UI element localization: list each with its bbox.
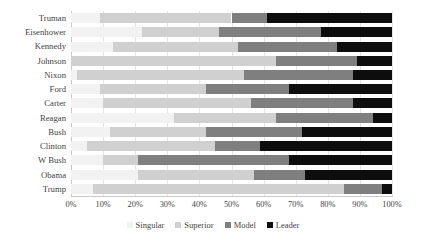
bar-row bbox=[71, 96, 392, 110]
bar-segment-model bbox=[206, 84, 289, 94]
bar-track bbox=[71, 13, 392, 23]
bar-segment-superior bbox=[103, 155, 138, 165]
bar-segment-singular bbox=[71, 84, 100, 94]
bar-row bbox=[71, 125, 392, 139]
bar-track bbox=[71, 84, 392, 94]
bar-segment-superior bbox=[87, 141, 215, 151]
category-label-clinton: Clinton bbox=[0, 139, 66, 153]
bar-segment-superior bbox=[103, 98, 251, 108]
legend-swatch-leader-icon bbox=[267, 222, 273, 228]
bar-segment-leader bbox=[267, 13, 392, 23]
bar-segment-leader bbox=[337, 42, 392, 52]
bar-segment-leader bbox=[382, 184, 392, 194]
x-axis-tick-labels: 0%10%20%30%40%50%60%70%80%90%100% bbox=[0, 198, 426, 212]
chart-title bbox=[0, 0, 426, 4]
bar-row bbox=[71, 111, 392, 125]
bar-segment-singular bbox=[71, 27, 142, 37]
category-axis-labels: TrumanEisenhowerKennedyJohnsonNixonFordC… bbox=[0, 11, 66, 196]
bar-segment-model bbox=[254, 170, 305, 180]
bar-segment-superior bbox=[142, 27, 219, 37]
bar-segment-model bbox=[206, 127, 302, 137]
bar-segment-singular bbox=[71, 141, 87, 151]
bar-row bbox=[71, 25, 392, 39]
bar-segment-model bbox=[251, 98, 354, 108]
bar-segment-leader bbox=[353, 70, 392, 80]
category-label-eisenhower: Eisenhower bbox=[0, 25, 66, 39]
bar-segment-leader bbox=[302, 127, 392, 137]
category-label-ford: Ford bbox=[0, 82, 66, 96]
bar-segment-model bbox=[276, 56, 356, 66]
category-label-nixon: Nixon bbox=[0, 68, 66, 82]
bar-segment-leader bbox=[357, 56, 392, 66]
bar-segment-singular bbox=[71, 184, 93, 194]
bar-track bbox=[71, 56, 392, 66]
legend-label: Model bbox=[234, 220, 256, 230]
bar-segment-model bbox=[344, 184, 383, 194]
bar-segment-singular bbox=[71, 155, 103, 165]
bar-segment-model bbox=[138, 155, 289, 165]
bar-segment-model bbox=[276, 113, 372, 123]
bar-segment-superior bbox=[100, 84, 206, 94]
bar-segment-superior bbox=[110, 127, 206, 137]
bar-segment-superior bbox=[138, 170, 254, 180]
bar-segment-model bbox=[219, 27, 322, 37]
chart-legend: SingularSuperiorModelLeader bbox=[0, 217, 426, 233]
bar-series-group bbox=[71, 11, 392, 196]
legend-item-leader[interactable]: Leader bbox=[267, 220, 300, 230]
bar-segment-leader bbox=[353, 98, 392, 108]
bar-row bbox=[71, 168, 392, 182]
bar-row bbox=[71, 139, 392, 153]
bar-segment-leader bbox=[305, 170, 392, 180]
bar-row bbox=[71, 11, 392, 25]
bar-segment-superior bbox=[174, 113, 277, 123]
legend-label: Singular bbox=[136, 220, 165, 230]
bar-segment-leader bbox=[373, 113, 392, 123]
bar-segment-singular bbox=[71, 170, 138, 180]
legend-label: Superior bbox=[184, 220, 213, 230]
bar-segment-singular bbox=[71, 113, 174, 123]
bar-row bbox=[71, 182, 392, 196]
bar-track bbox=[71, 184, 392, 194]
bar-track bbox=[71, 70, 392, 80]
legend-swatch-model-icon bbox=[225, 222, 231, 228]
bar-segment-model bbox=[244, 70, 353, 80]
bar-segment-superior bbox=[71, 56, 276, 66]
bar-track bbox=[71, 27, 392, 37]
bar-row bbox=[71, 153, 392, 167]
bar-track bbox=[71, 170, 392, 180]
bar-row bbox=[71, 68, 392, 82]
bar-segment-leader bbox=[321, 27, 392, 37]
bar-row bbox=[71, 82, 392, 96]
x-axis-line bbox=[71, 196, 393, 197]
bar-track bbox=[71, 141, 392, 151]
gridline-100 bbox=[392, 11, 393, 196]
bar-segment-singular bbox=[71, 42, 113, 52]
category-label-carter: Carter bbox=[0, 96, 66, 110]
category-label-kennedy: Kennedy bbox=[0, 39, 66, 53]
bar-segment-model bbox=[232, 13, 267, 23]
bar-track bbox=[71, 113, 392, 123]
category-label-reagan: Reagan bbox=[0, 111, 66, 125]
bar-track bbox=[71, 155, 392, 165]
bar-row bbox=[71, 39, 392, 53]
category-label-truman: Truman bbox=[0, 11, 66, 25]
bar-segment-model bbox=[238, 42, 338, 52]
x-tick-label-100: 100% bbox=[372, 198, 412, 212]
category-label-w-bush: W Bush bbox=[0, 153, 66, 167]
category-label-obama: Obama bbox=[0, 168, 66, 182]
bar-segment-singular bbox=[71, 13, 100, 23]
bar-segment-superior bbox=[77, 70, 244, 80]
category-label-bush: Bush bbox=[0, 125, 66, 139]
bar-row bbox=[71, 54, 392, 68]
stacked-bar-chart: TrumanEisenhowerKennedyJohnsonNixonFordC… bbox=[0, 0, 426, 240]
legend-item-superior[interactable]: Superior bbox=[175, 220, 213, 230]
category-label-johnson: Johnson bbox=[0, 54, 66, 68]
bar-segment-superior bbox=[113, 42, 238, 52]
legend-label: Leader bbox=[276, 220, 300, 230]
bar-segment-leader bbox=[289, 84, 392, 94]
legend-item-singular[interactable]: Singular bbox=[127, 220, 165, 230]
legend-item-model[interactable]: Model bbox=[225, 220, 256, 230]
legend-swatch-superior-icon bbox=[175, 222, 181, 228]
bar-track bbox=[71, 127, 392, 137]
bar-segment-superior bbox=[93, 184, 343, 194]
